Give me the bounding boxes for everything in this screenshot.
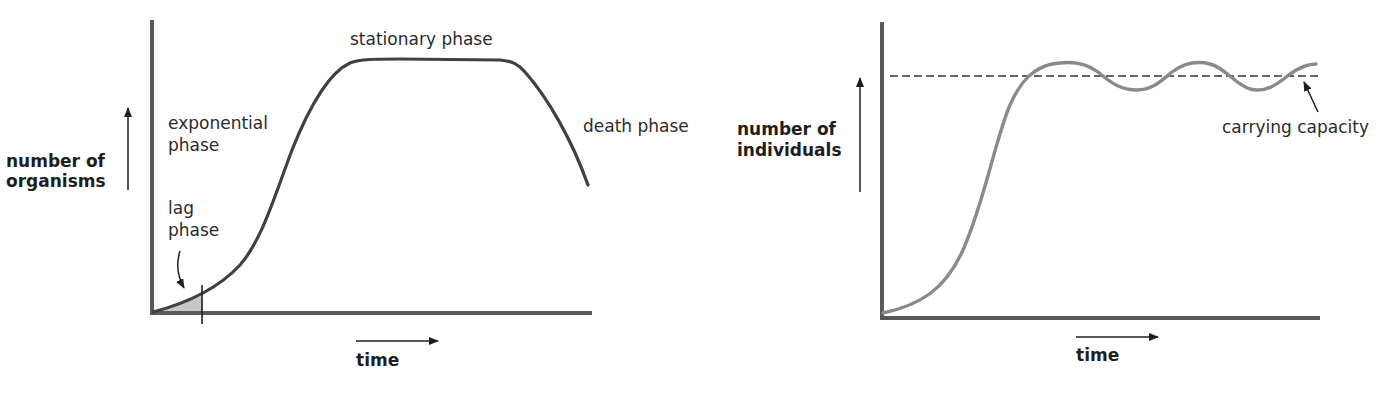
left-y-axis-label-line2: organisms [6, 171, 106, 191]
left-chart [128, 20, 592, 341]
carrying-capacity-arrow [1304, 82, 1318, 112]
exponential-phase-label-line2: phase [168, 135, 219, 155]
bacterial-growth-curve [153, 59, 588, 312]
exponential-phase-label-line1: exponential [168, 113, 268, 133]
figure-canvas [0, 0, 1390, 396]
lag-phase-label-line2: phase [168, 220, 219, 240]
logistic-growth-curve [883, 63, 1316, 313]
stationary-phase-label: stationary phase [350, 29, 493, 49]
right-x-axis-label: time [1076, 345, 1119, 365]
right-chart [860, 22, 1320, 337]
lag-phase-label-line1: lag [168, 198, 194, 218]
left-y-axis-label-line1: number of [6, 151, 105, 171]
lag-phase-arrow [178, 251, 184, 288]
carrying-capacity-label: carrying capacity [1222, 117, 1369, 137]
left-x-axis-label: time [356, 350, 399, 370]
death-phase-label: death phase [583, 116, 689, 136]
right-y-axis-label-line2: individuals [737, 140, 842, 160]
right-y-axis-label-line1: number of [737, 119, 836, 139]
